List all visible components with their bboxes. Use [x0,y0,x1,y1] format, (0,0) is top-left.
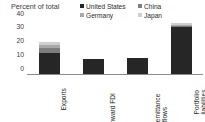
bar-segment-united-states [39,53,60,74]
legend-label-china: China [144,3,161,10]
x-tick-label-line: liabilities [201,89,205,114]
legend-label-united-states: United States [86,3,126,10]
bar-segment-united-states [127,58,148,75]
legend-swatch-united-states [80,4,84,8]
x-tick-label-line: Inward FDI [109,93,116,122]
x-tick-label-line: inflows [161,94,168,122]
bar-exports [39,42,60,74]
y-tick-label: 0 [20,64,24,71]
x-tick-label-line: Portfolio [193,89,200,114]
x-tick-label: Exports [60,88,67,110]
bar-segment-united-states [171,27,192,74]
bar-chart: Percent of total United States China Ger… [0,0,205,122]
x-tick-label-line: Exports [60,88,67,110]
chart-legend: United States China Germany Japan [80,2,204,19]
legend-item-japan: Japan [138,11,196,19]
y-tick-label: 10 [16,50,24,57]
legend-label-germany: Germany [86,12,113,19]
legend-swatch-japan [138,13,142,17]
x-tick-label: Remittanceinflows [154,94,169,122]
x-tick-label-line: Remittance [154,94,161,122]
x-axis-line [27,74,203,75]
bar-segment-united-states [83,59,104,74]
y-tick-label: 40 [16,9,24,16]
x-tick-label: Portfolioliabilities [193,89,205,114]
bar-remittance-inflows [127,58,148,75]
y-tick-label: 30 [16,23,24,30]
legend-item-china: China [138,2,196,10]
legend-item-germany: Germany [80,11,136,19]
plot-area: 010203040 [27,19,203,75]
legend-label-japan: Japan [144,12,162,19]
legend-swatch-china [138,4,142,8]
bar-inward-fdi [83,59,104,74]
legend-item-united-states: United States [80,2,136,10]
y-tick-label: 20 [16,37,24,44]
legend-swatch-germany [80,13,84,17]
x-tick-label: Inward FDI [109,93,116,122]
x-axis-labels: ExportsInward FDIRemittanceinflowsPortfo… [27,77,203,122]
bar-portfolio-liabilities [171,23,192,74]
